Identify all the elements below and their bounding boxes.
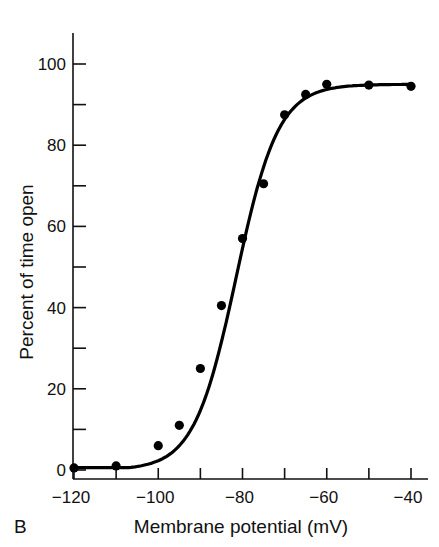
y-axis-title: Percent of time open <box>16 184 37 359</box>
data-point <box>175 421 184 430</box>
y-tick-label: 60 <box>47 217 66 236</box>
x-axis: −120−100−80−60−40 <box>52 468 428 507</box>
data-point <box>112 461 121 470</box>
data-point <box>280 110 289 119</box>
y-tick-label: 80 <box>47 136 66 155</box>
y-tick-label: 100 <box>38 55 66 74</box>
x-tick-label: −40 <box>394 488 423 507</box>
y-axis: 020406080100 <box>38 33 86 480</box>
data-point <box>196 364 205 373</box>
fit-curve <box>74 84 411 467</box>
data-point <box>217 301 226 310</box>
data-point <box>406 82 415 91</box>
panel-label: B <box>14 516 27 537</box>
x-axis-title: Membrane potential (mV) <box>134 516 348 537</box>
x-tick-label: −100 <box>136 488 174 507</box>
y-tick-label: 0 <box>57 461 66 480</box>
data-point <box>322 80 331 89</box>
data-points <box>69 80 415 473</box>
open-probability-chart: 020406080100 −120−100−80−60−40 Percent o… <box>0 0 439 547</box>
data-point <box>69 463 78 472</box>
x-tick-label: −60 <box>309 488 338 507</box>
x-tick-label: −120 <box>52 488 90 507</box>
y-tick-label: 40 <box>47 299 66 318</box>
data-point <box>301 90 310 99</box>
data-point <box>238 234 247 243</box>
data-point <box>364 81 373 90</box>
data-point <box>154 441 163 450</box>
data-point <box>259 179 268 188</box>
x-tick-label: −80 <box>225 488 254 507</box>
y-tick-label: 20 <box>47 380 66 399</box>
